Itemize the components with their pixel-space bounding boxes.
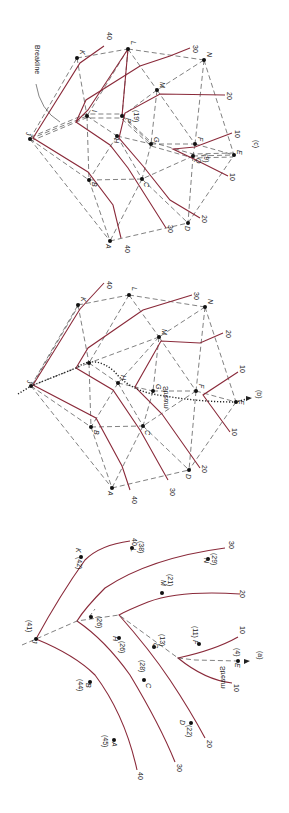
svg-text:E: E <box>234 663 241 668</box>
tin-edges-c <box>30 49 234 241</box>
svg-text:20: 20 <box>206 740 213 748</box>
svg-text:K: K <box>80 297 87 302</box>
panel-c: J K L N M I P (19) H G F Q (9) E C B D A… <box>25 32 260 253</box>
svg-text:(22): (22) <box>185 725 193 737</box>
svg-text:M: M <box>160 580 167 586</box>
svg-text:30: 30 <box>192 45 199 53</box>
svg-text:B: B <box>85 683 92 688</box>
svg-text:40: 40 <box>131 496 138 504</box>
svg-text:30: 30 <box>193 292 200 300</box>
svg-text:(c): (c) <box>252 140 260 148</box>
svg-text:D: D <box>185 474 192 479</box>
svg-text:M: M <box>161 329 168 335</box>
svg-text:40: 40 <box>124 245 131 253</box>
svg-text:H: H <box>113 138 120 144</box>
svg-text:N: N <box>206 52 213 58</box>
points-a <box>34 546 240 742</box>
svg-text:J: J <box>31 639 38 644</box>
svg-text:E: E <box>236 150 243 155</box>
svg-text:C: C <box>143 182 150 188</box>
stream-arrow-icon <box>244 659 250 664</box>
contours-a <box>36 541 240 770</box>
svg-text:Stream: Stream <box>219 666 226 689</box>
svg-text:I: I <box>91 110 98 112</box>
svg-text:G: G <box>153 137 160 143</box>
svg-text:A: A <box>105 243 112 249</box>
svg-text:20: 20 <box>201 215 208 223</box>
svg-text:B: B <box>93 430 100 435</box>
labels-b: J K L N M H G F E C B D A Stream 40 30 2… <box>26 281 263 504</box>
svg-text:K: K <box>79 50 86 55</box>
svg-text:30: 30 <box>228 541 235 549</box>
svg-text:(26): (26) <box>118 641 126 653</box>
svg-text:E: E <box>238 400 245 405</box>
svg-text:C: C <box>145 683 152 689</box>
svg-text:(19): (19) <box>132 110 140 122</box>
svg-text:N: N <box>207 299 214 305</box>
svg-text:(21): (21) <box>166 574 174 586</box>
points-c <box>28 47 236 243</box>
svg-text:(44): (44) <box>76 679 84 691</box>
svg-text:20: 20 <box>201 465 208 473</box>
svg-text:P: P <box>125 118 132 123</box>
svg-text:B: B <box>91 182 98 187</box>
points-b <box>29 293 238 490</box>
svg-text:10: 10 <box>234 130 241 138</box>
svg-text:10: 10 <box>233 684 240 692</box>
svg-text:40: 40 <box>106 32 113 40</box>
svg-text:Q: Q <box>194 158 202 164</box>
svg-text:10: 10 <box>239 626 246 634</box>
svg-text:L: L <box>131 287 138 291</box>
svg-text:(a): (a) <box>256 651 264 660</box>
contours-b <box>33 283 238 490</box>
svg-text:G: G <box>155 384 162 390</box>
svg-text:(45): (45) <box>101 735 109 747</box>
svg-text:30: 30 <box>169 488 176 496</box>
svg-text:Breakline: Breakline <box>34 45 41 74</box>
svg-text:L: L <box>130 548 137 552</box>
tin-edges-b <box>31 295 236 488</box>
svg-text:K: K <box>75 548 82 553</box>
breakline-leader <box>36 84 60 122</box>
labels-a: J (41) K (42) L (38) N (29) M (21) (26) … <box>25 538 264 780</box>
svg-text:F: F <box>197 137 204 142</box>
svg-text:A: A <box>111 741 118 747</box>
svg-text:A: A <box>107 490 114 496</box>
panel-b: J K L N M H G F E C B D A Stream 40 30 2… <box>18 281 263 504</box>
svg-text:M: M <box>159 82 166 88</box>
svg-text:40: 40 <box>137 772 144 780</box>
svg-text:(26): (26) <box>95 616 103 628</box>
svg-text:(29): (29) <box>210 553 218 565</box>
svg-text:F: F <box>198 384 205 389</box>
contours-c <box>33 46 232 238</box>
svg-text:J: J <box>26 379 33 384</box>
panel-a: J (41) K (42) L (38) N (29) M (21) (26) … <box>22 538 264 780</box>
svg-text:J: J <box>25 131 32 136</box>
svg-text:20: 20 <box>239 590 246 598</box>
svg-text:30: 30 <box>167 225 174 233</box>
svg-text:G: G <box>152 643 159 649</box>
svg-text:(b): (b) <box>255 390 263 399</box>
svg-text:10: 10 <box>239 365 246 373</box>
svg-text:L: L <box>130 41 137 45</box>
svg-text:10: 10 <box>231 428 238 436</box>
svg-text:C: C <box>144 430 151 436</box>
svg-text:D: D <box>184 226 191 231</box>
svg-text:(11): (11) <box>191 626 199 638</box>
stream-line-a <box>178 658 238 661</box>
svg-text:20: 20 <box>226 92 233 100</box>
svg-text:D: D <box>179 720 186 725</box>
tin-contour-figure: J K L N M I P (19) H G F Q (9) E C B D A… <box>0 0 289 813</box>
svg-text:30: 30 <box>176 764 183 772</box>
svg-text:Stream: Stream <box>162 386 169 409</box>
svg-text:H: H <box>112 636 119 642</box>
svg-text:(13): (13) <box>158 634 166 646</box>
svg-text:20: 20 <box>225 330 232 338</box>
svg-text:10: 10 <box>229 173 236 181</box>
svg-text:40: 40 <box>106 281 113 289</box>
svg-text:40: 40 <box>131 538 138 546</box>
svg-text:F: F <box>192 640 199 645</box>
svg-text:(41): (41) <box>25 620 33 632</box>
svg-text:(42): (42) <box>75 557 83 569</box>
svg-text:N: N <box>203 558 210 564</box>
